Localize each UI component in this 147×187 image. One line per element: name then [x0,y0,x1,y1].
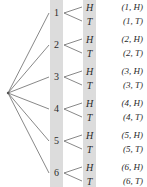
outcome-3-t: (3, T) [97,81,143,90]
outcome-1-t: (1, T) [97,17,143,26]
outcome-6-h: (6, H) [97,163,143,172]
die-node-3-label: 3 [54,71,59,82]
coin-node-5-h: H [83,131,96,141]
coin-node-4-h: H [83,99,96,109]
stage2-branch-4-T [64,109,82,117]
coin-node-4-t-label: T [87,112,93,123]
stage1-branch-6 [8,93,49,173]
stage2-branch-4-H [64,103,82,109]
coin-node-1-h-label: H [86,2,93,13]
outcome-1-h: (1, H) [97,3,143,12]
coin-node-2-t-label: T [87,48,93,59]
outcome-2-t: (2, T) [97,49,143,58]
die-node-5-label: 5 [54,135,59,146]
coin-node-2-h-label: H [86,34,93,45]
coin-node-6-t-label: T [87,176,93,187]
stage1-branch-1 [8,13,49,93]
tree-diagram: 1 2 3 4 5 6 H T H T H T H T H T H T (1, … [0,0,147,187]
coin-node-6-h-label: H [86,162,93,173]
stage2-branch-5-H [64,135,82,141]
stage2-branch-3-T [64,77,82,85]
coin-node-1-t: T [83,17,96,27]
outcome-5-h: (5, H) [97,131,143,140]
stage2-branch-2-H [64,39,82,45]
die-node-6-label: 6 [54,167,59,178]
coin-node-5-t-label: T [87,144,93,155]
outcome-3-h: (3, H) [97,67,143,76]
die-node-3: 3 [50,72,63,82]
stage1-branch-4 [8,93,49,109]
die-node-5: 5 [50,136,63,146]
outcome-6-t: (6, T) [97,177,143,186]
coin-node-3-h: H [83,67,96,77]
outcome-4-h: (4, H) [97,99,143,108]
outcome-4-t: (4, T) [97,113,143,122]
coin-node-3-t-label: T [87,80,93,91]
coin-node-2-t: T [83,49,96,59]
coin-node-6-t: T [83,177,96,187]
outcome-2-h: (2, H) [97,35,143,44]
stage2-branch-3-H [64,71,82,77]
stage2-branch-5-T [64,141,82,149]
root-node [7,92,9,94]
stage2-branch-1-T [64,13,82,21]
coin-node-4-h-label: H [86,98,93,109]
coin-node-4-t: T [83,113,96,123]
branch-lines [0,0,147,187]
stage2-branch-1-H [64,7,82,13]
die-node-6: 6 [50,168,63,178]
die-node-4: 4 [50,104,63,114]
coin-node-2-h: H [83,35,96,45]
coin-node-1-t-label: T [87,16,93,27]
stage1-branch-5 [8,93,49,141]
coin-node-1-h: H [83,3,96,13]
stage2-branch-2-T [64,45,82,53]
die-node-1: 1 [50,8,63,18]
coin-node-3-h-label: H [86,66,93,77]
die-node-1-label: 1 [54,7,59,18]
stage2-branch-6-T [64,173,82,181]
coin-node-5-t: T [83,145,96,155]
stage1-branch-2 [8,45,49,93]
die-node-2: 2 [50,40,63,50]
stage1-branch-3 [8,77,49,93]
die-node-2-label: 2 [54,39,59,50]
stage2-branch-6-H [64,167,82,173]
coin-node-6-h: H [83,163,96,173]
coin-node-3-t: T [83,81,96,91]
outcome-5-t: (5, T) [97,145,143,154]
coin-node-5-h-label: H [86,130,93,141]
die-node-4-label: 4 [54,103,59,114]
